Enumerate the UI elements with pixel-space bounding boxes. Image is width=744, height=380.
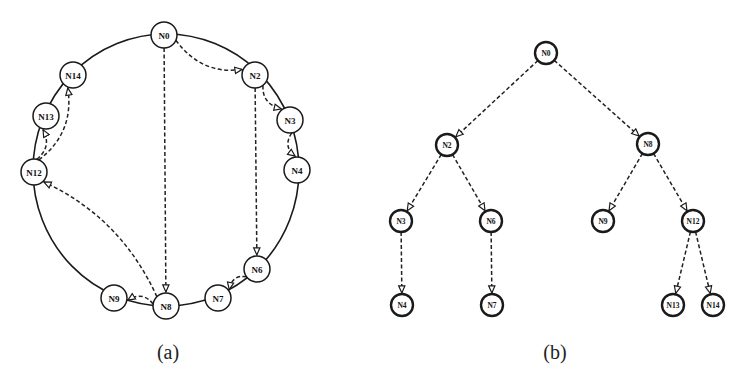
node-n13: N13 [662,294,684,316]
node-label: N14 [65,71,81,81]
node-n12: N12 [21,159,47,185]
node-n13: N13 [33,103,59,129]
edge-n0-to-n2 [456,60,538,136]
tree-nodes: N0N2N8N3N6N9N12N4N7N13N14 [390,42,724,316]
tree-edges [401,60,710,293]
edge-n0-to-n2 [176,40,242,70]
figure-a-ring-overlay: N0N2N3N4N6N7N8N9N12N13N14 (a) [21,22,310,364]
edge-n12-to-n14 [696,232,711,294]
node-label: N9 [598,217,607,226]
node-n8: N8 [637,133,659,155]
node-n6: N6 [480,210,502,232]
edge-n2-to-n6 [255,88,257,255]
edge-n8-to-n12 [44,182,157,297]
node-label: N12 [687,217,700,226]
node-label: N3 [396,217,405,226]
node-n6: N6 [244,256,270,282]
figure-canvas: N0N2N3N4N6N7N8N9N12N13N14 (a) N0N2N8N3N6… [0,0,744,380]
node-label: N7 [213,294,224,304]
node-label: N6 [486,217,495,226]
edge-n6-to-n7 [491,232,492,293]
node-label: N7 [487,301,496,310]
node-label: N8 [161,302,172,312]
edge-n0-to-n8 [554,60,639,136]
node-n4: N4 [284,157,310,183]
edge-n2-to-n6 [453,155,485,211]
node-n12: N12 [682,210,704,232]
node-n0: N0 [535,42,557,64]
edge-n8-to-n9 [609,153,642,210]
node-n7: N7 [481,294,503,316]
node-label: N8 [643,140,652,149]
node-label: N0 [541,49,550,58]
node-label: N4 [292,166,303,176]
node-n9: N9 [592,210,614,232]
figure-b-tree: N0N2N8N3N6N9N12N4N7N13N14 (b) [390,42,724,364]
node-label: N9 [109,294,120,304]
node-label: N2 [442,141,451,150]
node-label: N6 [252,265,263,275]
node-n7: N7 [205,285,231,311]
node-label: N3 [285,116,296,126]
node-n0: N0 [151,22,177,48]
node-n4: N4 [391,294,413,316]
edge-n8-to-n12 [654,153,687,210]
node-n14: N14 [60,62,86,88]
node-label: N12 [26,168,42,178]
node-label: N14 [707,301,720,310]
edge-n12-to-n13 [676,232,691,294]
node-n2: N2 [436,134,458,156]
edge-n2-to-n3 [407,154,441,210]
node-n9: N9 [101,285,127,311]
node-label: N13 [667,301,680,310]
node-n3: N3 [277,107,303,133]
node-n2: N2 [242,62,268,88]
caption-a: (a) [157,341,179,364]
node-label: N2 [250,71,261,81]
node-label: N0 [159,31,170,41]
edge-n0-to-n8 [164,48,166,292]
edge-n3-to-n4 [401,232,402,293]
node-label: N13 [38,112,54,122]
ring-nodes: N0N2N3N4N6N7N8N9N12N13N14 [21,22,310,319]
node-n14: N14 [702,294,724,316]
caption-b: (b) [543,341,566,364]
node-label: N4 [397,301,406,310]
node-n3: N3 [390,210,412,232]
node-n8: N8 [153,293,179,319]
edge-n3-to-n4 [288,133,295,156]
